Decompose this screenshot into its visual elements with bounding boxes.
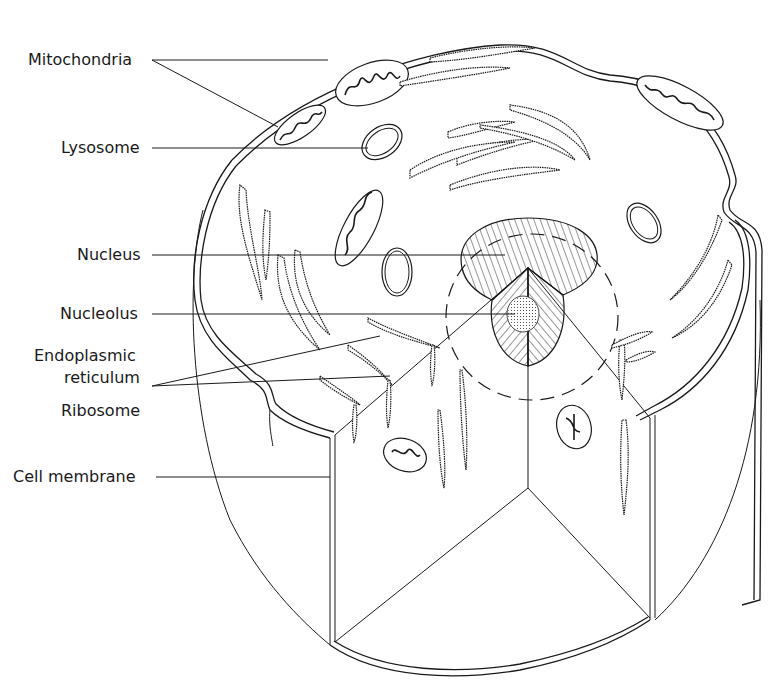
label-nucleolus: Nucleolus	[60, 305, 138, 323]
label-lysosome: Lysosome	[61, 139, 140, 157]
label-reticulum: reticulum	[64, 369, 140, 387]
label-nucleus: Nucleus	[77, 246, 141, 264]
label-cell-membrane: Cell membrane	[13, 468, 136, 486]
label-ribosome: Ribosome	[61, 402, 140, 420]
cell-illustration	[0, 0, 783, 687]
label-mitochondria: Mitochondria	[28, 51, 132, 69]
label-endoplasmic: Endoplasmic	[34, 347, 136, 365]
cell-diagram: Mitochondria Lysosome Nucleus Nucleolus …	[0, 0, 783, 687]
cutaway-wedge	[330, 268, 655, 676]
nucleus	[446, 218, 618, 400]
leader-lines	[152, 60, 515, 477]
